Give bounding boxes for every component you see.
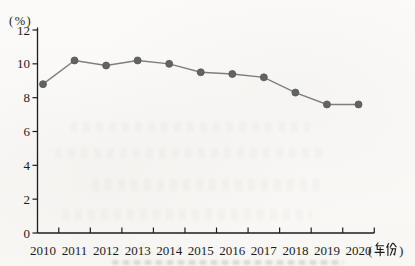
data-line <box>43 60 359 104</box>
y-tick-label: 0 <box>24 226 31 241</box>
x-tick-label: 2015 <box>188 243 214 258</box>
x-tick-label: 2018 <box>282 243 308 258</box>
data-point-2015 <box>197 69 204 76</box>
x-tick-label: 2014 <box>156 243 183 258</box>
data-point-2012 <box>103 62 110 69</box>
data-point-2017 <box>260 74 267 81</box>
y-tick-label: 4 <box>24 158 31 173</box>
nian-year-glyph-icon <box>375 243 384 256</box>
scanned-chart-page: 0246810122010201120122013201420152016201… <box>0 0 415 266</box>
y-tick-label: 8 <box>24 90 31 105</box>
data-point-2018 <box>292 89 299 96</box>
x-tick-label: 2011 <box>62 243 88 258</box>
data-point-2010 <box>40 81 47 88</box>
line-chart-svg: 0246810122010201120122013201420152016201… <box>0 0 415 266</box>
data-point-2014 <box>166 60 173 67</box>
x-tick-label: 2019 <box>314 243 340 258</box>
fen-unit-glyph-icon <box>387 243 396 255</box>
data-point-2019 <box>323 101 330 108</box>
x-tick-label: 2010 <box>30 243 56 258</box>
data-point-2016 <box>229 70 236 77</box>
data-point-2011 <box>71 57 78 64</box>
x-tick-label: 2016 <box>219 243 246 258</box>
close-paren-label: ) <box>399 243 403 258</box>
x-tick-label: 2013 <box>125 243 151 258</box>
x-axis-unit-label: () <box>368 243 403 258</box>
y-tick-label: 10 <box>17 56 30 71</box>
y-tick-label: 2 <box>24 192 31 207</box>
y-axis-unit-label: (%) <box>9 14 32 28</box>
x-tick-label: 2012 <box>93 243 119 258</box>
data-point-2020 <box>355 101 362 108</box>
data-point-2013 <box>134 57 141 64</box>
open-paren-label: ( <box>368 243 372 258</box>
y-tick-label: 6 <box>24 124 31 139</box>
x-tick-label: 2017 <box>251 243 278 258</box>
